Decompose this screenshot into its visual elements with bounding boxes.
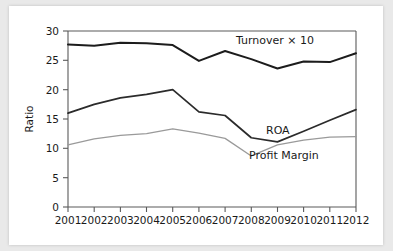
x-tick-label-2012: 2012 [343, 214, 370, 226]
x-tick-label-2011: 2011 [316, 214, 343, 226]
series-label-roa: ROA [266, 124, 290, 137]
y-tick-label-5: 5 [52, 172, 59, 184]
series-label-turnover: Turnover × 10 [235, 34, 314, 47]
line-chart-figure: 30 25 20 15 10 5 0 Ratio [0, 0, 393, 251]
y-tick-label-20: 20 [46, 84, 59, 96]
x-tick-label-2006: 2006 [186, 214, 213, 226]
chart-axes [68, 31, 356, 207]
y-axis-title: Ratio [23, 106, 35, 133]
chart-series [68, 43, 356, 156]
chart-annotations: Turnover × 10 ROA Profit Margin [235, 34, 319, 162]
y-tick-label-30: 30 [46, 25, 59, 37]
x-tick-label-2008: 2008 [238, 214, 265, 226]
x-tick-label-2001: 2001 [55, 214, 82, 226]
x-tick-label-2007: 2007 [212, 214, 239, 226]
y-tick-label-25: 25 [46, 54, 59, 66]
y-tick-label-0: 0 [52, 201, 59, 213]
x-tick-label-2009: 2009 [264, 214, 291, 226]
chart-svg: 30 25 20 15 10 5 0 Ratio [0, 0, 393, 251]
page-root: 30 25 20 15 10 5 0 Ratio [0, 0, 393, 251]
x-tick-label-2005: 2005 [159, 214, 186, 226]
series-line-roa [68, 90, 356, 142]
x-tick-label-2002: 2002 [81, 214, 108, 226]
y-axis-ticks: 30 25 20 15 10 5 0 [46, 25, 68, 213]
series-label-profit-margin: Profit Margin [249, 149, 319, 162]
x-tick-label-2010: 2010 [290, 214, 317, 226]
y-tick-label-10: 10 [46, 142, 59, 154]
x-axis-ticks: 2001 2002 2003 2004 2005 2006 2007 2008 … [55, 207, 370, 226]
y-tick-label-15: 15 [46, 113, 59, 125]
x-tick-label-2003: 2003 [107, 214, 134, 226]
x-tick-label-2004: 2004 [133, 214, 160, 226]
